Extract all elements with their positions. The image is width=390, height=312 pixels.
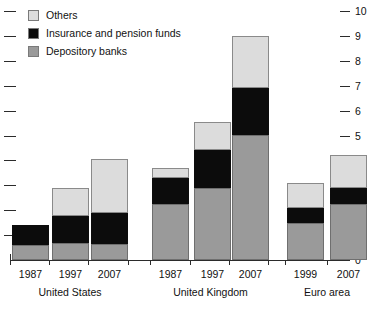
y-axis-tick-right — [340, 11, 350, 12]
bar-segment-others — [52, 188, 89, 217]
y-axis-tick-left — [4, 86, 16, 87]
y-axis-tick-left — [4, 111, 16, 112]
bar-segment-insurance-and-pension-funds — [52, 216, 89, 242]
y-axis-tick-label: 5 — [355, 131, 361, 141]
chart-legend: Others Insurance and pension funds Depos… — [28, 7, 181, 61]
bar-segment-others — [287, 183, 324, 208]
y-axis-tick-right — [340, 86, 350, 87]
bar-segment-depository-banks — [194, 188, 231, 260]
x-axis-group-tick — [229, 260, 230, 265]
group-label-united-kingdom: United Kingdom — [152, 287, 269, 298]
y-axis-tick-right — [340, 61, 350, 62]
y-axis-tick-left — [4, 11, 16, 12]
y-axis-tick-left — [4, 36, 16, 37]
x-axis-group-tick — [150, 260, 151, 265]
y-axis-tick-left — [4, 160, 16, 161]
bar-segment-insurance-and-pension-funds — [330, 188, 367, 204]
x-axis-group-tick — [88, 260, 89, 265]
y-axis-tick-label: 10 — [355, 6, 367, 16]
y-axis-tick-right — [340, 36, 350, 37]
bar-segment-depository-banks — [152, 204, 189, 260]
x-axis-group-tick — [49, 260, 50, 265]
bar-1987 — [152, 168, 189, 260]
y-axis-tick-right — [340, 111, 350, 112]
bar-segment-others — [91, 159, 128, 213]
legend-swatch-depository-icon — [28, 46, 39, 57]
bar-segment-insurance-and-pension-funds — [194, 150, 231, 187]
bar-2007 — [91, 159, 128, 260]
bar-segment-insurance-and-pension-funds — [12, 225, 49, 245]
bar-segment-others — [152, 168, 189, 178]
x-axis-group-tick — [10, 260, 11, 265]
y-axis-tick-label: 7 — [355, 81, 361, 91]
bar-segment-insurance-and-pension-funds — [152, 178, 189, 204]
bar-segment-depository-banks — [52, 243, 89, 260]
x-axis-group-tick — [327, 260, 328, 265]
bar-segment-depository-banks — [232, 135, 269, 260]
legend-label-others: Others — [46, 10, 78, 21]
x-axis-label-1987: 1987 — [12, 269, 49, 280]
bar-segment-insurance-and-pension-funds — [232, 88, 269, 135]
bar-segment-insurance-and-pension-funds — [91, 213, 128, 244]
legend-label-insurance: Insurance and pension funds — [46, 28, 181, 39]
bar-segment-depository-banks — [287, 223, 324, 260]
bar-1999 — [287, 183, 324, 260]
legend-item-insurance-and-pension-funds: Insurance and pension funds — [28, 25, 181, 41]
bar-segment-depository-banks — [91, 244, 128, 260]
x-axis-label-1987: 1987 — [152, 269, 189, 280]
x-axis-group-tick — [190, 260, 191, 265]
bar-segment-others — [330, 155, 367, 187]
y-axis-tick-left — [4, 210, 16, 211]
y-axis-tick-left — [4, 185, 16, 186]
bar-1997 — [194, 122, 231, 260]
x-axis-label-1997: 1997 — [52, 269, 89, 280]
bar-segment-depository-banks — [330, 204, 367, 260]
legend-swatch-others-icon — [28, 10, 39, 21]
legend-item-others: Others — [28, 7, 181, 23]
x-axis-label-2007: 2007 — [232, 269, 269, 280]
x-axis-label-2007: 2007 — [330, 269, 367, 280]
group-label-euro-area: Euro area — [287, 287, 367, 298]
x-axis-baseline — [10, 260, 350, 261]
y-axis-tick-left — [4, 136, 16, 137]
x-axis-label-1997: 1997 — [194, 269, 231, 280]
bar-segment-others — [194, 122, 231, 151]
bar-1997 — [52, 188, 89, 260]
x-axis-group-tick — [268, 260, 269, 265]
bar-segment-depository-banks — [12, 245, 49, 260]
y-axis-tick-right — [340, 136, 350, 137]
x-axis-group-tick — [285, 260, 286, 265]
x-axis-label-1999: 1999 — [287, 269, 324, 280]
bar-2007 — [232, 36, 269, 260]
bar-1987 — [12, 225, 49, 260]
y-axis-tick-label: 6 — [355, 106, 361, 116]
group-label-united-states: United States — [12, 287, 128, 298]
stacked-bar-chart: Others Insurance and pension funds Depos… — [0, 0, 390, 312]
bar-2007 — [330, 155, 367, 260]
y-axis-tick-label: 9 — [355, 31, 361, 41]
x-axis-label-2007: 2007 — [91, 269, 128, 280]
y-axis-tick-label: 8 — [355, 56, 361, 66]
bar-segment-others — [232, 36, 269, 88]
x-axis-group-tick — [128, 260, 129, 265]
legend-swatch-insurance-icon — [28, 28, 39, 39]
bar-segment-insurance-and-pension-funds — [287, 208, 324, 223]
y-axis-tick-left — [4, 61, 16, 62]
legend-item-depository-banks: Depository banks — [28, 43, 181, 59]
legend-label-depository: Depository banks — [46, 46, 127, 57]
